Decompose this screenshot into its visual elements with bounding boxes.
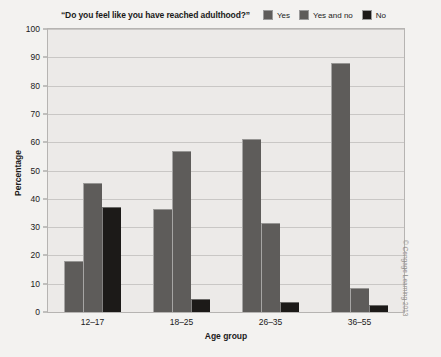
chart-header: “Do you feel like you have reached adult… <box>0 6 441 24</box>
bar <box>350 288 369 312</box>
y-tick-label: 10 <box>31 279 40 289</box>
bar <box>191 299 210 312</box>
x-tick-label: 12–17 <box>81 317 105 327</box>
bar-group <box>315 29 404 312</box>
y-tick-label: 80 <box>31 81 40 91</box>
y-tick-label: 60 <box>31 137 40 147</box>
bar <box>83 183 102 312</box>
y-tick-label: 40 <box>31 194 40 204</box>
bar <box>280 302 299 312</box>
y-tick-label: 50 <box>31 166 40 176</box>
legend-swatch-icon <box>263 10 273 20</box>
bar <box>64 261 83 312</box>
y-axis-title: Percentage <box>13 133 23 213</box>
legend-swatch-icon <box>299 10 309 20</box>
bars-layer <box>48 29 404 312</box>
y-tick-label: 20 <box>31 250 40 260</box>
bar <box>172 151 191 312</box>
bar <box>153 209 172 312</box>
bar <box>331 63 350 312</box>
y-axis: Percentage 0102030405060708090100 <box>0 28 47 313</box>
y-tick-label: 30 <box>31 222 40 232</box>
bar-group <box>137 29 226 312</box>
bar <box>102 207 121 312</box>
legend-label: No <box>376 11 386 20</box>
y-tick-label: 70 <box>31 109 40 119</box>
y-tick-label: 100 <box>26 24 40 34</box>
x-axis-title: Age group <box>48 331 404 341</box>
bar <box>369 305 388 312</box>
y-tick-label: 90 <box>31 52 40 62</box>
legend-label: Yes <box>277 11 290 20</box>
x-tick-label: 18–25 <box>170 317 194 327</box>
bar-group <box>48 29 137 312</box>
chart-figure: “Do you feel like you have reached adult… <box>0 0 441 357</box>
legend-item-yes: Yes <box>263 10 290 20</box>
chart-title: “Do you feel like you have reached adult… <box>61 10 250 20</box>
bar-group <box>226 29 315 312</box>
x-tick-label: 26–35 <box>259 317 283 327</box>
legend-item-no: No <box>362 10 386 20</box>
x-tick-label: 36–55 <box>348 317 372 327</box>
bar <box>242 139 261 312</box>
chart-legend: YesYes and noNo <box>263 10 386 20</box>
bar <box>261 223 280 312</box>
copyright-credit: © Cengage Learning 2013 <box>402 240 409 316</box>
legend-item-yes-and-no: Yes and no <box>299 10 353 20</box>
legend-label: Yes and no <box>313 11 353 20</box>
legend-swatch-icon <box>362 10 372 20</box>
y-tick-label: 0 <box>35 307 40 317</box>
